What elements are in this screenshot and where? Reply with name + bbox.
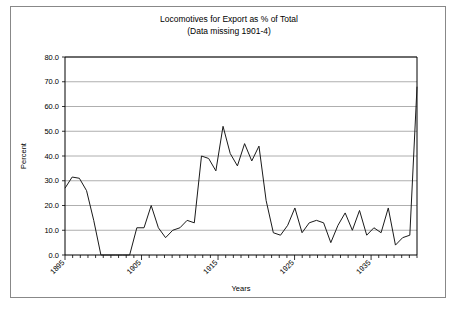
y-tick-label: 40.0 bbox=[44, 152, 59, 161]
y-axis-tick-labels: 0.010.020.030.040.050.060.070.080.0 bbox=[44, 53, 59, 260]
x-axis-tick-labels: 18951905191519251935 bbox=[48, 258, 372, 276]
y-tick-label: 80.0 bbox=[44, 53, 59, 62]
data-series-line bbox=[65, 87, 417, 255]
y-tick-label: 20.0 bbox=[44, 201, 59, 210]
x-axis-title: Years bbox=[232, 284, 251, 293]
y-tick-label: 70.0 bbox=[44, 77, 59, 86]
x-tick-label: 1925 bbox=[278, 258, 296, 276]
y-tick-label: 10.0 bbox=[44, 226, 59, 235]
y-axis-title: Percent bbox=[19, 142, 28, 169]
chart-plot: 0.010.020.030.040.050.060.070.080.0 1895… bbox=[0, 0, 458, 311]
y-tick-label: 30.0 bbox=[44, 176, 59, 185]
x-tick-label: 1905 bbox=[125, 258, 143, 276]
y-tick-label: 0.0 bbox=[49, 251, 59, 260]
x-tick-label: 1915 bbox=[201, 258, 219, 276]
x-tick-label: 1895 bbox=[48, 258, 66, 276]
y-tick-label: 50.0 bbox=[44, 127, 59, 136]
y-tick-label: 60.0 bbox=[44, 102, 59, 111]
x-tick-label: 1935 bbox=[354, 258, 372, 276]
gridlines bbox=[65, 57, 417, 230]
line-chart-svg: 0.010.020.030.040.050.060.070.080.0 1895… bbox=[0, 0, 458, 311]
